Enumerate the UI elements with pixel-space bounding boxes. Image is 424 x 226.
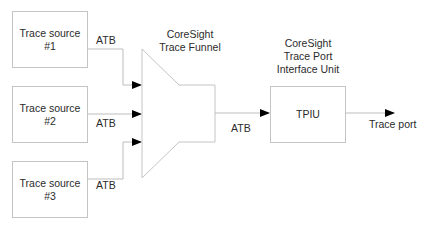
tpiu-title: CoreSight Trace Port Interface Unit <box>266 37 350 76</box>
trace-source-1-number: #1 <box>44 40 56 52</box>
trace-port-label: Trace port <box>369 118 416 131</box>
tpiu-title-line2: Trace Port <box>284 50 333 62</box>
trace-funnel-title-line2: Trace Funnel <box>159 41 220 53</box>
trace-funnel-shape <box>142 49 215 178</box>
tpiu-title-line3: Interface Unit <box>277 63 339 75</box>
trace-source-3-number: #3 <box>44 190 56 202</box>
atb-label-3: ATB <box>96 179 116 192</box>
trace-source-2-number: #2 <box>44 115 56 127</box>
trace-source-1-label: Trace source <box>20 27 81 39</box>
atb-connector-3 <box>87 142 141 179</box>
tpiu-box: TPIU <box>270 86 346 143</box>
trace-source-3-label: Trace source <box>20 177 81 189</box>
trace-funnel-title-line1: CoreSight <box>167 28 214 40</box>
atb-connector-1 <box>87 49 141 85</box>
trace-funnel-title: CoreSight Trace Funnel <box>150 28 230 54</box>
trace-source-2-label: Trace source <box>20 102 81 114</box>
trace-source-1-box: Trace source#1 <box>12 11 88 68</box>
trace-source-3-box: Trace source#3 <box>12 161 88 218</box>
trace-source-2-box: Trace source#2 <box>12 86 88 143</box>
tpiu-title-line1: CoreSight <box>285 37 332 49</box>
atb-label-4: ATB <box>231 122 251 135</box>
atb-label-1: ATB <box>96 34 116 47</box>
atb-label-2: ATB <box>96 117 116 130</box>
tpiu-box-label: TPIU <box>296 108 320 121</box>
